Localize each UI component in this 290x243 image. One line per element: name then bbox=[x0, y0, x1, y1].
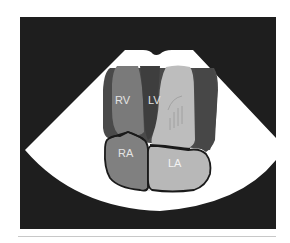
label-la: LA bbox=[168, 157, 182, 169]
crux bbox=[148, 189, 150, 191]
bottom-rule bbox=[18, 236, 276, 237]
four-chamber-diagram: RV LV RA LA bbox=[0, 0, 290, 243]
heart: RV LV RA LA bbox=[103, 66, 218, 192]
label-ra: RA bbox=[118, 147, 134, 159]
label-rv: RV bbox=[115, 94, 131, 106]
lv-lateral-wall bbox=[195, 68, 217, 152]
label-lv: LV bbox=[148, 94, 161, 106]
